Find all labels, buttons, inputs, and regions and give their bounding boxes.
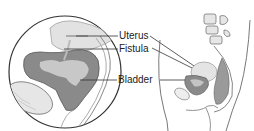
label-fistula: Fistula <box>119 44 148 54</box>
sagittal-view <box>159 14 250 131</box>
label-uterus: Uterus <box>119 31 148 41</box>
magnified-inset <box>2 16 121 130</box>
spine <box>204 14 230 44</box>
anatomy-diagram <box>0 0 254 131</box>
label-bladder: Bladder <box>118 75 152 85</box>
